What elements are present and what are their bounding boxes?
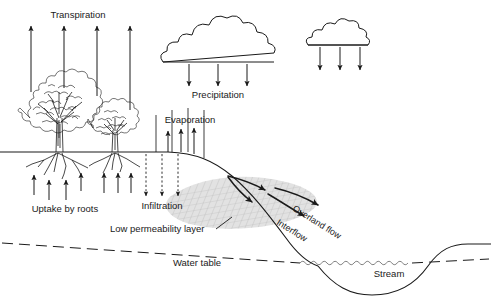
low-permeability-layer-label: Low permeability layer bbox=[110, 223, 205, 234]
stream-label: Stream bbox=[374, 268, 405, 279]
water-table-label: Water table bbox=[173, 257, 221, 268]
infiltration-label: Infiltration bbox=[141, 200, 182, 211]
transpiration-label: Transpiration bbox=[50, 9, 105, 20]
caption-fragment-strip bbox=[2, 302, 122, 306]
diagram-background bbox=[0, 0, 491, 306]
diagram-canvas: Transpiration Precipitation Evaporation bbox=[0, 0, 491, 306]
hydrologic-cycle-diagram: Transpiration Precipitation Evaporation bbox=[0, 0, 491, 306]
uptake-by-roots-label: Uptake by roots bbox=[32, 203, 99, 214]
precipitation-label: Precipitation bbox=[192, 89, 244, 100]
